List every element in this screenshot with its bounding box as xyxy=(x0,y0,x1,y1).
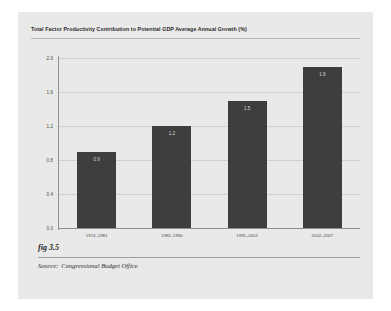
source-value: Congressional Budget Office xyxy=(61,262,137,269)
chart-plot: 0.00.40.81.21.62.00.91974–19811.21982–19… xyxy=(31,42,360,238)
x-axis-line xyxy=(58,228,360,229)
bar: 1.9 xyxy=(303,67,342,229)
chart-title: Total Factor Productivity Contribution t… xyxy=(31,26,361,32)
figure-page: Total Factor Productivity Contribution t… xyxy=(18,12,373,299)
x-axis-tick-label: 1982–1990 xyxy=(134,233,209,238)
bar-value-label: 1.9 xyxy=(303,72,342,77)
y-axis-tick-label: 1.6 xyxy=(31,90,53,95)
bar-value-label: 0.9 xyxy=(77,157,116,162)
x-axis-tick-label: 1991–2001 xyxy=(210,233,285,238)
bar: 0.9 xyxy=(77,152,116,229)
figure-label: fig 3.5 xyxy=(38,243,59,252)
caption-divider xyxy=(38,257,360,258)
x-axis-tick-label: 2002–2007 xyxy=(285,233,360,238)
bar: 1.2 xyxy=(152,126,191,228)
x-axis-tick-label: 1974–1981 xyxy=(59,233,134,238)
y-axis-tick-label: 0.4 xyxy=(31,192,53,197)
bar-value-label: 1.2 xyxy=(152,131,191,136)
figure-source: Source:Congressional Budget Office xyxy=(38,262,138,269)
gridline xyxy=(59,58,360,59)
y-axis-tick-label: 0.8 xyxy=(31,158,53,163)
title-divider xyxy=(31,38,360,39)
bar: 1.5 xyxy=(228,101,267,229)
bar-value-label: 1.5 xyxy=(228,106,267,111)
y-axis-tick-label: 0.0 xyxy=(31,226,53,231)
y-axis-tick-label: 2.0 xyxy=(31,56,53,61)
y-axis-tick-label: 1.2 xyxy=(31,124,53,129)
source-label: Source: xyxy=(38,262,58,269)
